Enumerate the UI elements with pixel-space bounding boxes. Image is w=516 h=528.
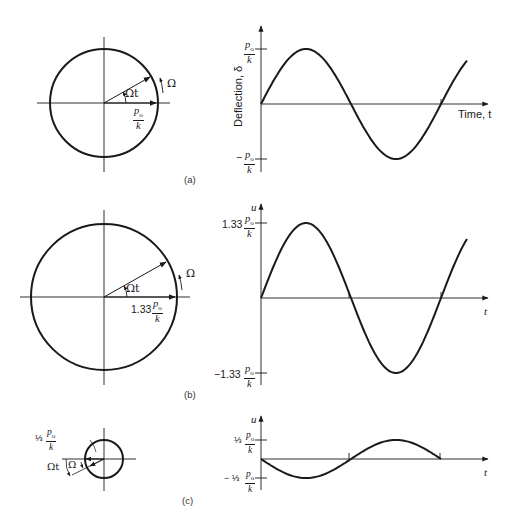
amplitude-label-c: po k	[46, 427, 56, 452]
x-axis-label-b: t	[484, 305, 487, 317]
x-axis-label-c: t	[484, 466, 487, 478]
amplitude-coef-b: 1.33	[131, 303, 151, 315]
y-tick-max-b: po k	[244, 214, 255, 239]
figure-graphics	[0, 0, 516, 528]
y-tick-min-c: po k	[245, 469, 255, 494]
amplitude-coef-c: ⅓	[35, 432, 43, 444]
angle-label-b: Ωt	[126, 283, 140, 295]
figure-root: Ωt Ω po k (a) po k − po k Deflection, δ …	[0, 0, 516, 528]
plot-a	[255, 26, 488, 172]
y-axis-label-c: u	[251, 413, 257, 425]
y-tick-max-coef-b: 1.33	[222, 218, 242, 230]
plot-b	[255, 204, 488, 385]
plot-c	[255, 416, 488, 490]
rotation-label-a: Ω	[167, 78, 176, 90]
phasor-diagram-a	[37, 37, 170, 172]
amplitude-label-b: po k	[152, 299, 163, 324]
panel-label-a: (a)	[184, 174, 196, 185]
y-tick-max-coef-c: ⅓	[234, 434, 242, 446]
y-tick-min-coef-c: − ⅓	[224, 472, 239, 484]
amplitude-label-a: po k	[133, 106, 144, 131]
angle-label-a: Ωt	[125, 88, 139, 100]
phasor-diagram-b	[20, 210, 190, 385]
y-tick-min-coef-a: −	[236, 151, 242, 163]
x-axis-label-a: Time, t	[458, 108, 491, 120]
panel-label-b: (b)	[184, 389, 196, 400]
rotation-label-b: Ω	[186, 268, 195, 280]
angle-label-c: Ωt	[47, 461, 59, 473]
y-tick-min-a: po k	[244, 150, 255, 175]
y-tick-max-c: po k	[245, 430, 255, 455]
y-axis-label-b: u	[251, 201, 257, 213]
y-axis-label-a: Deflection, δ	[232, 66, 244, 127]
panel-label-c: (c)	[182, 495, 193, 506]
y-tick-max-a: po k	[244, 40, 255, 65]
y-tick-min-coef-b: −1.33	[214, 368, 241, 380]
rotation-label-c: Ω	[68, 459, 76, 471]
y-tick-min-b: po k	[244, 364, 255, 389]
